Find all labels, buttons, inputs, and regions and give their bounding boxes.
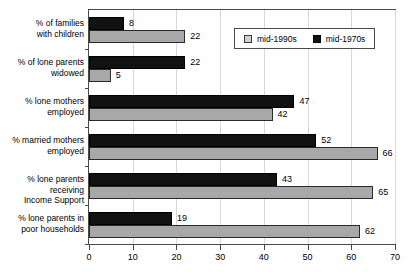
x-axis-tick-label: 30 bbox=[215, 252, 225, 263]
legend-label: mid-1990s bbox=[257, 34, 297, 44]
x-axis-tick bbox=[264, 245, 265, 250]
gray-swatch-icon bbox=[244, 35, 252, 43]
gridline bbox=[176, 10, 177, 244]
x-axis-tick-label: 40 bbox=[259, 252, 269, 263]
y-axis-tick bbox=[85, 127, 89, 128]
category-label: % of familieswith children bbox=[0, 18, 84, 39]
bar-mid-1970s bbox=[89, 95, 294, 108]
x-axis-tick bbox=[176, 245, 177, 250]
bar-group: 225 bbox=[89, 56, 395, 82]
category-label-line: widowed bbox=[0, 68, 84, 79]
bar-mid-1970s bbox=[89, 212, 172, 225]
category-label: % lone mothersemployed bbox=[0, 96, 84, 117]
bar-row: 19 bbox=[89, 212, 395, 225]
category-label: % lone parents inpoor households bbox=[0, 213, 84, 234]
x-axis-tick-label: 0 bbox=[86, 252, 91, 263]
category-label-line: % married mothers bbox=[0, 135, 84, 146]
legend-item: mid-1970s bbox=[313, 34, 366, 44]
category-label-line: employed bbox=[0, 146, 84, 157]
category-label-line: % lone mothers bbox=[0, 96, 84, 107]
bar-value-label: 19 bbox=[177, 211, 187, 225]
bar-value-label: 22 bbox=[190, 55, 200, 69]
category-label: % married mothersemployed bbox=[0, 135, 84, 156]
x-axis-tick-label: 60 bbox=[346, 252, 356, 263]
bar-value-label: 66 bbox=[383, 146, 393, 160]
bar-value-label: 43 bbox=[282, 172, 292, 186]
bar-mid-1970s bbox=[89, 134, 316, 147]
x-axis-tick bbox=[395, 245, 396, 250]
black-swatch-icon bbox=[313, 35, 321, 43]
gridline bbox=[220, 10, 221, 244]
x-axis-tick bbox=[89, 245, 90, 250]
x-axis-tick-label: 20 bbox=[171, 252, 181, 263]
x-axis-tick-label: 70 bbox=[390, 252, 400, 263]
x-axis-tick-label: 10 bbox=[128, 252, 138, 263]
bar-row: 43 bbox=[89, 173, 395, 186]
x-axis-tick-label: 50 bbox=[303, 252, 313, 263]
bar-row: 47 bbox=[89, 95, 395, 108]
bar-mid-1970s bbox=[89, 56, 185, 69]
y-axis-tick bbox=[85, 88, 89, 89]
category-label-line: Income Support bbox=[0, 195, 84, 206]
bar-group: 4742 bbox=[89, 95, 395, 121]
bar-mid-1990s bbox=[89, 186, 373, 199]
category-label-line: % of lone parents bbox=[0, 57, 84, 68]
legend-label: mid-1970s bbox=[326, 34, 366, 44]
category-label-line: % lone parents in bbox=[0, 213, 84, 224]
gridline bbox=[395, 10, 396, 244]
category-label: % lone parents receivingIncome Support bbox=[0, 174, 84, 206]
bar-row: 5 bbox=[89, 69, 395, 82]
bar-chart: 8222254742526643651962 % of familieswith… bbox=[0, 0, 409, 272]
bar-mid-1970s bbox=[89, 173, 277, 186]
bar-row: 66 bbox=[89, 147, 395, 160]
category-label-line: with children bbox=[0, 29, 84, 40]
y-axis-tick bbox=[85, 49, 89, 50]
y-axis-tick bbox=[85, 205, 89, 206]
bar-row: 22 bbox=[89, 56, 395, 69]
y-axis-tick bbox=[85, 166, 89, 167]
bar-mid-1990s bbox=[89, 30, 185, 43]
bar-row: 42 bbox=[89, 108, 395, 121]
bar-value-label: 42 bbox=[278, 107, 288, 121]
gridline bbox=[133, 10, 134, 244]
bar-mid-1990s bbox=[89, 147, 378, 160]
bar-mid-1990s bbox=[89, 108, 273, 121]
bar-value-label: 52 bbox=[321, 133, 331, 147]
bar-value-label: 8 bbox=[129, 16, 134, 30]
bar-value-label: 62 bbox=[365, 224, 375, 238]
category-label: % of lone parentswidowed bbox=[0, 57, 84, 78]
x-axis-tick bbox=[133, 245, 134, 250]
bar-row: 52 bbox=[89, 134, 395, 147]
category-label-line: % lone parents receiving bbox=[0, 174, 84, 195]
bar-value-label: 65 bbox=[378, 185, 388, 199]
bar-value-label: 47 bbox=[299, 94, 309, 108]
x-axis-tick bbox=[308, 245, 309, 250]
category-label-line: % of families bbox=[0, 18, 84, 29]
bar-row: 65 bbox=[89, 186, 395, 199]
category-label-line: poor households bbox=[0, 224, 84, 235]
chart-legend: mid-1990smid-1970s bbox=[234, 28, 375, 49]
x-axis: 010203040506070 bbox=[88, 245, 396, 272]
bar-value-label: 5 bbox=[116, 68, 121, 82]
bar-row: 62 bbox=[89, 225, 395, 238]
category-label-line: employed bbox=[0, 107, 84, 118]
bar-mid-1970s bbox=[89, 17, 124, 30]
x-axis-tick bbox=[220, 245, 221, 250]
bar-mid-1990s bbox=[89, 69, 111, 82]
legend-item: mid-1990s bbox=[244, 34, 297, 44]
bar-group: 1962 bbox=[89, 212, 395, 238]
bar-group: 5266 bbox=[89, 134, 395, 160]
bar-mid-1990s bbox=[89, 225, 360, 238]
bar-value-label: 22 bbox=[190, 29, 200, 43]
bar-group: 4365 bbox=[89, 173, 395, 199]
x-axis-tick bbox=[351, 245, 352, 250]
